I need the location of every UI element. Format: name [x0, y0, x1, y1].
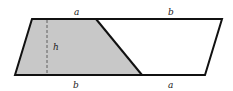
parallelogram-diagram: a b h b a [0, 0, 233, 91]
shaded-trapezoid [15, 19, 142, 75]
label-bottom-b: b [73, 80, 79, 90]
label-top-a: a [74, 7, 79, 17]
label-bottom-a: a [168, 80, 173, 90]
label-height-h: h [53, 42, 59, 52]
label-top-b: b [168, 7, 174, 17]
